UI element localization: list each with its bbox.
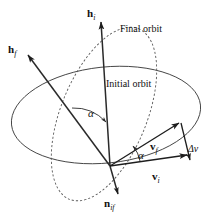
delta-v-vector — [181, 123, 190, 160]
h-f-axis — [28, 55, 110, 166]
final-orbit-ellipse — [30, 13, 179, 214]
label-h-f: hf — [8, 43, 18, 58]
label-initial-orbit: Initial orbit — [106, 78, 151, 89]
v-i-vector — [110, 155, 187, 166]
orbit-plane-change-diagram: hi hf nif vi vf Δv α α Final orbit Initi… — [0, 0, 212, 214]
label-delta-v: Δv — [187, 143, 199, 154]
label-alpha-lower: α — [138, 149, 144, 161]
label-v-f: vf — [150, 140, 160, 155]
label-h-i: hi — [87, 7, 95, 22]
n-if-axis — [110, 166, 118, 194]
label-n-if: nif — [104, 197, 116, 212]
label-v-i: vi — [152, 170, 160, 185]
h-i-axis — [101, 22, 110, 166]
initial-orbit-ellipse — [7, 57, 206, 172]
v-f-vector — [110, 123, 179, 166]
label-alpha-upper: α — [88, 107, 94, 119]
diagram-canvas: hi hf nif vi vf Δv α α Final orbit Initi… — [0, 0, 212, 214]
label-final-orbit: Final orbit — [120, 23, 162, 34]
